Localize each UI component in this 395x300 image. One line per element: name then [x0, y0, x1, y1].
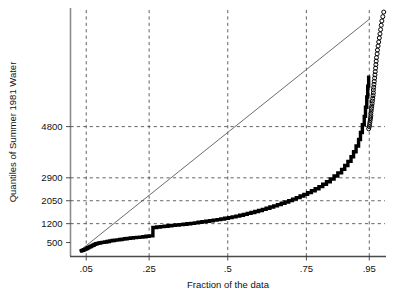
reference-line [79, 19, 370, 251]
data-point-marker [380, 19, 384, 23]
tick-label-y: 2900 [41, 172, 62, 183]
tick-label-x: .25 [143, 263, 156, 274]
tick-label-y: 4800 [41, 121, 62, 132]
data-point-marker [379, 28, 383, 32]
x-axis-title: Fraction of the data [187, 279, 270, 290]
data-point-marker [378, 32, 382, 36]
data-point-marker [382, 10, 386, 14]
quantile-plot-figure: 5001200205029004800 .05.25.5.75.95 Fract… [0, 0, 395, 300]
data-point-marker [381, 15, 385, 19]
data-point-marker [377, 40, 381, 44]
x-axis-tick-labels: .05.25.5.75.95 [80, 263, 376, 274]
tick-label-x: .75 [300, 263, 313, 274]
data-point-marker [376, 44, 380, 48]
tick-label-x: .5 [224, 263, 232, 274]
tick-label-x: .95 [363, 263, 376, 274]
data-point-marker [379, 23, 383, 27]
tick-label-y: 2050 [41, 195, 62, 206]
y-axis-tick-labels: 5001200205029004800 [41, 121, 62, 248]
tick-label-y: 1200 [41, 218, 62, 229]
data-point-marker [377, 36, 381, 40]
tick-label-x: .05 [80, 263, 93, 274]
tick-label-y: 500 [47, 237, 63, 248]
quantile-step-curve [80, 75, 369, 251]
plot-canvas: 5001200205029004800 .05.25.5.75.95 Fract… [0, 0, 395, 300]
y-axis-title: Quantiles of Summer 1981 Water [7, 62, 18, 203]
